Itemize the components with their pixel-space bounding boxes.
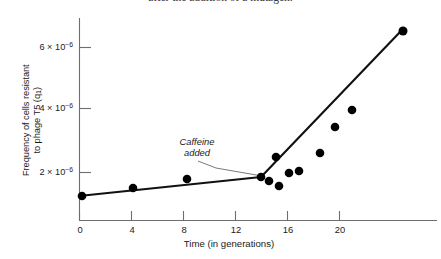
- x-tick-label: 0: [69, 224, 91, 235]
- y-tick-label: 6 × 10−6: [11, 41, 73, 52]
- annotation-caffeine-added: Caffeine added: [155, 136, 239, 158]
- x-axis-title: Time (in generations): [79, 238, 379, 249]
- x-tick-label: 16: [277, 224, 299, 235]
- annotation-leader-line: [198, 161, 262, 176]
- data-point: [285, 169, 294, 178]
- data-point: [129, 184, 138, 193]
- data-point: [183, 175, 192, 184]
- y-axis-title-line1: Frequency of cells resistant: [21, 64, 31, 176]
- y-tick-label: 4 × 10−6: [11, 102, 73, 113]
- y-tick-marks: [80, 48, 92, 173]
- data-point: [348, 106, 357, 115]
- y-tick-base: × 10: [47, 103, 65, 113]
- y-axis-title-subscript: 1: [35, 90, 44, 94]
- data-points: [78, 27, 408, 201]
- data-point: [275, 182, 284, 191]
- y-axis-title-paren: ): [32, 87, 42, 90]
- x-tick-marks: [80, 211, 340, 221]
- y-tick-exponent: −6: [65, 41, 73, 48]
- plot-area: [0, 0, 441, 259]
- data-point: [399, 27, 408, 36]
- y-tick-exponent: −6: [65, 166, 73, 173]
- y-tick-exponent: −6: [65, 102, 73, 109]
- data-point: [295, 167, 304, 176]
- data-point: [272, 153, 281, 162]
- data-point: [78, 192, 87, 201]
- data-point: [265, 177, 274, 186]
- x-tick-label: 4: [121, 224, 143, 235]
- x-tick-label: 20: [329, 224, 351, 235]
- y-axis-title: Frequency of cells resistant to phage T5…: [21, 25, 45, 215]
- y-tick-label: 2 × 10−6: [11, 166, 73, 177]
- y-tick-mantissa: 2: [39, 167, 44, 177]
- data-point: [331, 123, 340, 132]
- chart-figure: Frequency of cells resistant to phage T5…: [0, 0, 441, 259]
- y-tick-mantissa: 4: [39, 103, 44, 113]
- x-tick-label: 12: [225, 224, 247, 235]
- annotation-line2: added: [184, 147, 210, 158]
- data-point: [257, 173, 266, 182]
- data-point: [316, 149, 325, 158]
- annotation-line1: Caffeine: [180, 136, 215, 147]
- x-tick-label: 8: [173, 224, 195, 235]
- y-tick-mantissa: 6: [39, 42, 44, 52]
- y-tick-base: × 10: [47, 42, 65, 52]
- y-tick-base: × 10: [47, 167, 65, 177]
